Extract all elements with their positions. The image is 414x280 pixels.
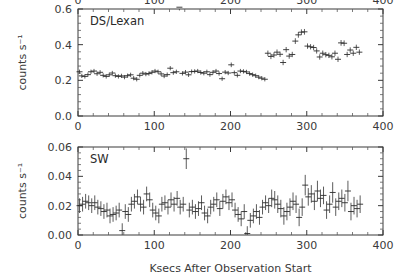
x-tick-label: 100 [144,239,165,252]
y-tick-label: 0.6 [55,3,73,16]
y-tick-label: 0.2 [55,74,73,87]
panel-title-label: SW [90,152,109,166]
x-tick-label: 100 [144,120,165,133]
plot-canvas: 001001002002003003004004000.00.20.40.6co… [0,0,414,280]
x-tick-label: 300 [296,239,317,252]
plot-frame [78,147,383,235]
x-tick-label-top: 200 [220,0,241,7]
x-tick-label: 400 [373,120,394,133]
x-tick-label-top: 100 [144,0,165,7]
x-tick-label-top: 400 [373,0,394,7]
x-tick-label-top: 0 [75,0,82,7]
x-tick-label: 200 [220,239,241,252]
y-tick-label: 0.04 [48,170,73,183]
x-tick-label: 0 [75,120,82,133]
y-tick-label: 0.06 [48,141,73,154]
x-tick-label: 200 [220,120,241,133]
y-tick-label: 0.00 [48,229,73,242]
x-tick-label-top: 300 [296,0,317,7]
data-series-bottom [77,148,364,235]
y-axis-label: counts s⁻¹ [16,163,29,219]
x-tick-label: 400 [373,239,394,252]
panel-bottom: 01002003004000.000.020.040.06counts s⁻¹S… [16,141,394,252]
x-axis-label: Ksecs After Observation Start [149,262,312,275]
y-tick-label: 0.0 [55,110,73,123]
x-tick-label: 300 [296,120,317,133]
lightcurve-figure: 001001002002003003004004000.00.20.40.6co… [0,0,414,280]
y-tick-label: 0.4 [55,39,73,52]
y-axis-label: counts s⁻¹ [16,34,29,90]
panel-title-label: DS/Lexan [90,14,144,28]
x-tick-label: 0 [75,239,82,252]
panel-top: 001001002002003003004004000.00.20.40.6co… [16,0,394,133]
y-tick-label: 0.02 [48,200,73,213]
